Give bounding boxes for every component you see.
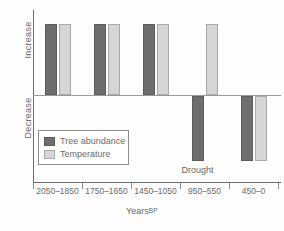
bar-tree-abundance <box>94 24 106 95</box>
bar-group <box>192 10 218 182</box>
legend-label-temperature: Temperature <box>60 149 111 160</box>
bar-temperature <box>206 24 218 95</box>
x-axis-title-main: Years <box>126 206 149 216</box>
y-axis-label-increase: Increase <box>23 0 33 80</box>
bar-tree-abundance <box>241 96 253 161</box>
chart-legend: Tree abundance Temperature <box>38 130 129 165</box>
bar-temperature <box>255 96 267 161</box>
bar-group <box>143 10 169 182</box>
x-tick-label: 1750–1650 <box>79 186 135 196</box>
x-axis-title: YearsBP <box>0 206 284 216</box>
y-axis-label-decrease: Decrease <box>23 78 33 158</box>
legend-label-tree-abundance: Tree abundance <box>60 136 125 147</box>
legend-swatch-temperature <box>44 150 55 159</box>
bar-tree-abundance <box>143 24 155 95</box>
bar-temperature <box>157 24 169 95</box>
figure-bar-chart: Increase Decrease Drought Tree abundance… <box>0 0 284 231</box>
legend-swatch-tree-abundance <box>44 137 55 146</box>
x-tick-label: 1450–1050 <box>128 186 184 196</box>
bar-tree-abundance <box>45 24 57 95</box>
bar-temperature <box>108 24 120 95</box>
x-axis-title-suffix: BP <box>149 207 158 214</box>
bar-tree-abundance <box>192 96 204 161</box>
annotation-drought: Drought <box>163 165 233 175</box>
bar-temperature <box>59 24 71 95</box>
x-tick-label: 2050–1850 <box>30 186 86 196</box>
legend-item-temperature: Temperature <box>44 148 123 161</box>
x-axis-line <box>33 182 281 183</box>
x-tick-label: 450–0 <box>226 186 282 196</box>
x-tick-label: 950–550 <box>177 186 233 196</box>
bar-group <box>241 10 267 182</box>
legend-item-tree-abundance: Tree abundance <box>44 135 123 148</box>
